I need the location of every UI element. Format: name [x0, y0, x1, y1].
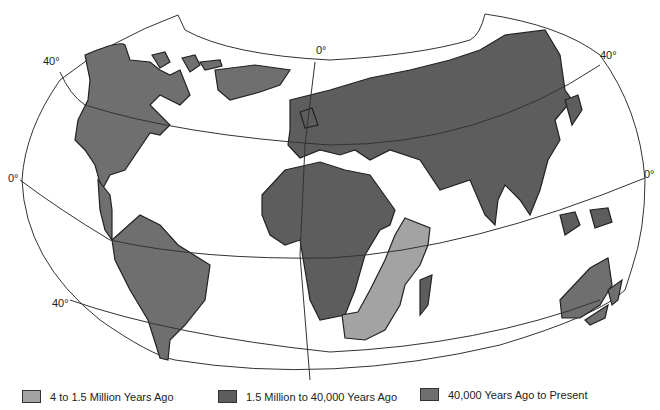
legend-label-recent: 40,000 Years Ago to Present [448, 389, 587, 401]
region-1.5m-to-40000 [262, 30, 612, 320]
label-meridian0-top: 0° [316, 44, 327, 56]
legend-label-middle: 1.5 Million to 40,000 Years Ago [246, 391, 397, 403]
world-map [0, 0, 660, 380]
legend-item-middle: 1.5 Million to 40,000 Years Ago [218, 390, 397, 403]
legend-swatch-early [22, 390, 41, 403]
legend-label-early: 4 to 1.5 Million Years Ago [50, 391, 174, 403]
legend-swatch-middle [218, 390, 237, 403]
legend: 4 to 1.5 Million Years Ago 1.5 Million t… [0, 386, 660, 408]
legend-item-early: 4 to 1.5 Million Years Ago [22, 390, 174, 403]
label-lat0-right: 0° [644, 168, 655, 180]
legend-item-recent: 40,000 Years Ago to Present [420, 388, 587, 401]
label-lat40-right: 40° [600, 49, 617, 61]
label-lat40-left: 40° [43, 55, 60, 67]
label-lat0-left: 0° [8, 172, 19, 184]
label-lat40s-left: 40° [52, 297, 69, 309]
legend-swatch-recent [420, 388, 439, 401]
